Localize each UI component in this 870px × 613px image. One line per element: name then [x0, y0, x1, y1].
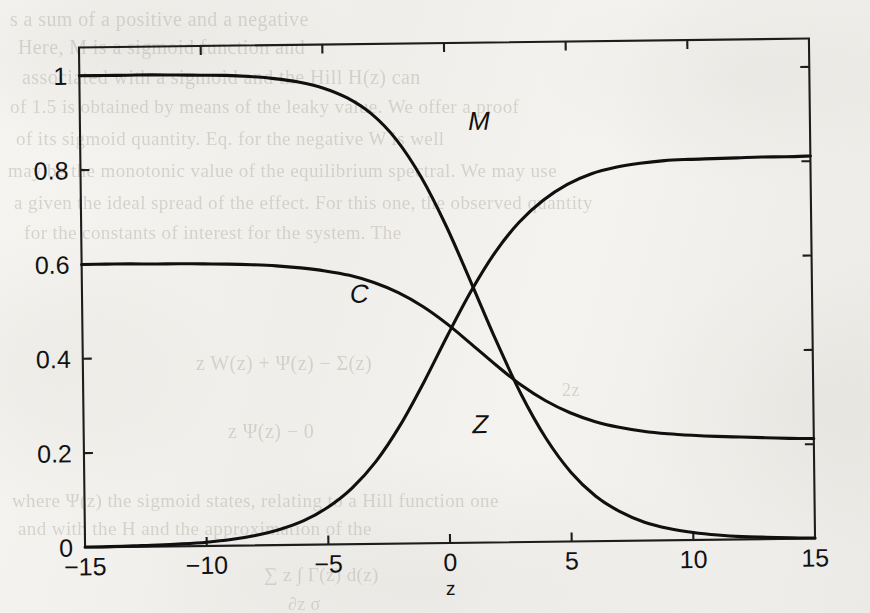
scanned-page: s a sum of a positive and a negativeHere…	[0, 0, 870, 613]
x-axis-tick-labels: −15−10−5051015	[64, 543, 829, 580]
x-tick-label: 10	[680, 545, 708, 573]
x-tick-label: 0	[443, 548, 457, 576]
y-tick-label: 0.8	[34, 156, 69, 184]
y-tick-label: 0.6	[35, 251, 70, 279]
y-tick-label: 0.2	[37, 439, 72, 467]
x-tick-label: −5	[314, 549, 343, 577]
curve-label-m: M	[468, 106, 490, 136]
curve-z	[80, 156, 815, 547]
figure-plot: −15−10−5051015 00.20.40.60.81 MCZ z	[0, 0, 870, 613]
x-tick-label: 5	[565, 546, 579, 574]
curve-label-c: C	[350, 278, 369, 308]
x-tick-label: 15	[801, 543, 829, 571]
y-tick-label: 0.4	[36, 345, 71, 373]
y-axis-tick-labels: 00.20.40.60.81	[32, 62, 73, 562]
data-curves	[79, 67, 815, 547]
curve-label-z: Z	[471, 409, 489, 439]
curve-m	[79, 67, 815, 547]
x-axis-title: z	[446, 578, 456, 599]
axis-box	[79, 39, 815, 548]
y-tick-label: 1	[53, 62, 67, 90]
x-tick-label: −10	[186, 551, 229, 580]
y-tick-label: 0	[59, 534, 73, 562]
curve-c	[82, 255, 814, 447]
